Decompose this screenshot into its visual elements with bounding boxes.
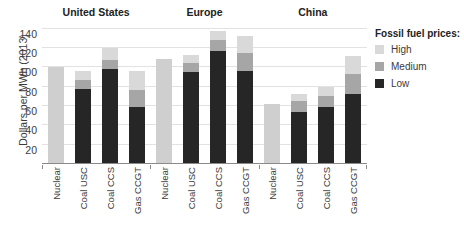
bar-segment-high: [129, 71, 145, 89]
bar-group-europe: [150, 24, 258, 164]
bar-segment-high: [102, 48, 118, 60]
bar-segment-medium: [318, 96, 334, 107]
bar-group-united-states: [42, 24, 150, 164]
bar-segment-high: [183, 55, 199, 63]
legend-swatch-high: [375, 45, 384, 54]
legend-label-low: Low: [391, 78, 409, 89]
bar-coal-usc: [75, 24, 91, 164]
bar-segment-high: [210, 31, 226, 41]
x-axis-tick-mark: [150, 165, 151, 169]
bar-segment-low: [318, 107, 334, 164]
bar-segment-high: [237, 36, 253, 53]
bar-gas-ccgt: [237, 24, 253, 164]
x-tick-label: Coal CCS: [210, 165, 226, 231]
bar-coal-ccs: [102, 24, 118, 164]
group-title-china: China: [259, 6, 367, 22]
x-tick-label: Gas CCGT: [345, 165, 361, 231]
x-label-group: NuclearCoal USCCoal CCSGas CCGT: [259, 165, 367, 231]
bar-nuclear: [264, 24, 280, 164]
x-tick-label: Nuclear: [48, 165, 64, 231]
bar-segment-high: [318, 87, 334, 97]
bar-segment-low: [291, 112, 307, 164]
legend-label-high: High: [391, 44, 412, 55]
bar-segment-single: [264, 104, 280, 164]
bar-coal-ccs: [318, 24, 334, 164]
bar-segment-medium: [345, 74, 361, 93]
x-label-group: NuclearCoal USCCoal CCSGas CCGT: [150, 165, 258, 231]
bar-coal-ccs: [210, 24, 226, 164]
bar-nuclear: [156, 24, 172, 164]
x-tick-label: Gas CCGT: [237, 165, 253, 231]
x-tick-label: Nuclear: [156, 165, 172, 231]
bar-segment-high: [345, 56, 361, 74]
x-tick-label: Nuclear: [264, 165, 280, 231]
bar-segment-medium: [210, 40, 226, 51]
legend-item-low: Low: [375, 78, 463, 89]
x-tick-label: Coal USC: [75, 165, 91, 231]
x-tick-label: Coal USC: [183, 165, 199, 231]
bar-segment-low: [237, 71, 253, 164]
bar-segment-low: [75, 89, 91, 164]
bar-segment-high: [75, 71, 91, 80]
bar-groups: [42, 24, 367, 164]
legend-title: Fossil fuel prices:: [375, 28, 463, 40]
bar-coal-usc: [291, 24, 307, 164]
bar-segment-medium: [237, 53, 253, 71]
x-axis-tick-mark: [259, 165, 260, 169]
plot-area: 20406080100120140: [42, 24, 367, 164]
legend-swatch-medium: [375, 62, 384, 71]
x-axis-tick-mark: [366, 165, 367, 169]
bar-segment-low: [210, 51, 226, 164]
x-axis-line: [42, 163, 367, 164]
bar-gas-ccgt: [129, 24, 145, 164]
bar-segment-low: [102, 69, 118, 164]
bar-group-china: [259, 24, 367, 164]
bar-segment-low: [183, 72, 199, 164]
bar-gas-ccgt: [345, 24, 361, 164]
x-tick-label: Gas CCGT: [129, 165, 145, 231]
group-title-europe: Europe: [150, 6, 258, 22]
bar-segment-low: [129, 107, 145, 164]
bar-segment-single: [48, 67, 64, 164]
legend: Fossil fuel prices: HighMediumLow: [375, 28, 463, 95]
bar-segment-medium: [291, 101, 307, 112]
legend-item-medium: Medium: [375, 61, 463, 72]
bar-segment-single: [156, 59, 172, 164]
bar-segment-medium: [129, 90, 145, 107]
x-tick-label: Coal CCS: [102, 165, 118, 231]
bar-coal-usc: [183, 24, 199, 164]
group-header-row: United StatesEuropeChina: [42, 6, 367, 22]
legend-item-high: High: [375, 44, 463, 55]
bar-nuclear: [48, 24, 64, 164]
bar-segment-high: [291, 94, 307, 102]
legend-items: HighMediumLow: [375, 44, 463, 89]
x-tick-label: Coal CCS: [318, 165, 334, 231]
legend-label-medium: Medium: [391, 61, 427, 72]
x-axis-labels: NuclearCoal USCCoal CCSGas CCGTNuclearCo…: [42, 165, 367, 231]
bar-segment-medium: [75, 80, 91, 89]
x-tick-label: Coal USC: [291, 165, 307, 231]
chart-root: Dollars per MWh (2013) United StatesEuro…: [0, 0, 464, 234]
x-axis-tick-mark: [42, 165, 43, 169]
group-title-united-states: United States: [42, 6, 150, 22]
legend-swatch-low: [375, 79, 384, 88]
bar-segment-low: [345, 94, 361, 164]
bar-segment-medium: [183, 63, 199, 73]
x-label-group: NuclearCoal USCCoal CCSGas CCGT: [42, 165, 150, 231]
bar-segment-medium: [102, 60, 118, 70]
